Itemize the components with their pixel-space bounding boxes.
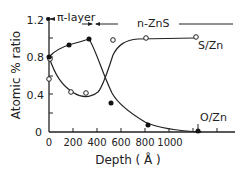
- x-tick-1000: 1000: [157, 137, 182, 148]
- o-zn-markers: [46, 17, 201, 134]
- x-tick-400: 400: [87, 137, 106, 148]
- s-zn-label: S/Zn: [198, 39, 223, 52]
- y-tick-0: 0: [35, 126, 42, 139]
- y-tick-0.8: 0.8: [27, 51, 45, 64]
- o-zn-curve: [49, 39, 202, 132]
- x-tick-200: 200: [63, 137, 82, 148]
- o-zn-label: O/Zn: [200, 111, 227, 124]
- x-tick-800: 800: [135, 137, 154, 148]
- x-axis-label: Depth ( Å ): [95, 152, 161, 167]
- x-tick-0: 0: [46, 137, 52, 148]
- nzns-arrowhead: [95, 22, 100, 26]
- y-axis-label: Atomic % ratio: [9, 31, 23, 119]
- y-tick-0.4: 0.4: [27, 89, 45, 102]
- chart: 0 0.4 0.8 1.2 0 200 400 600 800 1000 Ato…: [0, 0, 245, 173]
- nzns-label: n-ZnS: [137, 17, 169, 30]
- y-tick-1.2: 1.2: [27, 14, 45, 27]
- x-tick-600: 600: [111, 137, 130, 148]
- pi-layer-label: π-layer: [57, 11, 96, 24]
- pi-arrowhead-left: [50, 17, 55, 21]
- s-zn-curve: [49, 38, 195, 97]
